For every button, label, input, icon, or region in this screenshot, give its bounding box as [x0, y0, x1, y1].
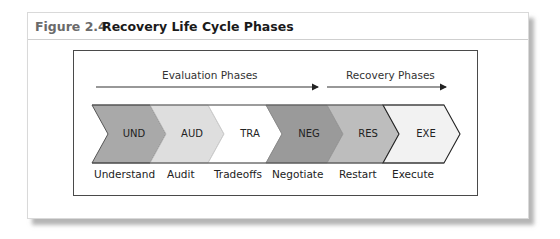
phase-name-understand: Understand — [94, 168, 155, 180]
phase-abbr-exe: EXE — [406, 128, 446, 139]
phase-abbr-neg: NEG — [289, 128, 329, 139]
phase-name-tradeoffs: Tradeoffs — [214, 168, 262, 180]
phase-abbr-aud: AUD — [172, 128, 212, 139]
phase-name-audit: Audit — [167, 168, 195, 180]
phase-abbr-und: UND — [114, 128, 154, 139]
recovery-phases-label: Recovery Phases — [346, 69, 435, 81]
phase-abbr-tra: TRA — [230, 128, 270, 139]
phase-name-execute: Execute — [392, 168, 434, 180]
phase-name-negotiate: Negotiate — [272, 168, 323, 180]
phase-abbr-res: RES — [348, 128, 388, 139]
evaluation-phases-label: Evaluation Phases — [162, 69, 258, 81]
phase-diagram — [0, 0, 560, 239]
phase-name-restart: Restart — [339, 168, 377, 180]
